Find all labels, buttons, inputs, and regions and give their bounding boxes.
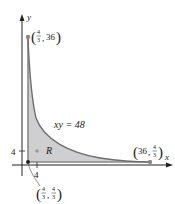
svg-text:3: 3 bbox=[153, 152, 156, 158]
svg-text:3: 3 bbox=[52, 194, 55, 200]
svg-text:): ) bbox=[57, 186, 62, 203]
x-axis-arrow-icon bbox=[166, 163, 173, 168]
region-r-fill bbox=[28, 37, 150, 162]
point-right bbox=[148, 160, 152, 164]
svg-text:(: ( bbox=[36, 186, 41, 203]
svg-text:4: 4 bbox=[153, 144, 156, 150]
x-tick-label: 4 bbox=[34, 170, 39, 180]
y-tick-label: 4 bbox=[11, 147, 16, 157]
point-top-label: ( 4 3 , 36 ) bbox=[31, 29, 61, 46]
curve-equation: xy = 48 bbox=[53, 119, 85, 130]
svg-text:(: ( bbox=[31, 29, 36, 46]
region-dot bbox=[35, 149, 39, 153]
y-axis-arrow-icon bbox=[20, 14, 25, 21]
svg-text:36: 36 bbox=[138, 146, 148, 156]
region-label: R bbox=[45, 145, 52, 156]
svg-text:,: , bbox=[47, 190, 49, 200]
svg-text:4: 4 bbox=[37, 29, 40, 35]
svg-text:3: 3 bbox=[37, 37, 40, 43]
y-axis-label: y bbox=[26, 12, 31, 22]
region-diagram: y x 4 4 xy = 48 R ( 4 3 , 36 ) ( 36 , 4 … bbox=[0, 0, 175, 204]
point-top bbox=[26, 35, 30, 39]
svg-text:36: 36 bbox=[46, 32, 56, 42]
point-corner-label: ( 4 3 , 4 3 ) bbox=[36, 186, 62, 203]
svg-text:,: , bbox=[148, 147, 150, 157]
svg-text:4: 4 bbox=[52, 186, 55, 192]
svg-text:3: 3 bbox=[42, 194, 45, 200]
svg-text:): ) bbox=[56, 29, 61, 46]
svg-text:4: 4 bbox=[42, 186, 45, 192]
point-right-label: ( 36 , 4 3 ) bbox=[133, 144, 163, 161]
svg-text:): ) bbox=[158, 144, 163, 161]
x-axis-label: x bbox=[164, 152, 169, 162]
svg-text:,: , bbox=[42, 33, 44, 43]
